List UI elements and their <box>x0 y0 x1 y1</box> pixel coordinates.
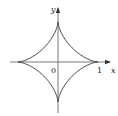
origin-label: 0 <box>51 66 56 75</box>
x-axis-label: x <box>111 66 116 75</box>
y-axis-label: y <box>50 5 56 14</box>
astroid-figure: y x 0 1 <box>0 0 118 116</box>
x-tick-label-one: 1 <box>97 66 102 75</box>
